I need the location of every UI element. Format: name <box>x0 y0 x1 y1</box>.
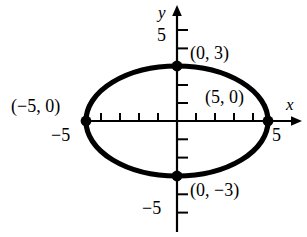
point-label-left: (−5, 0) <box>11 97 60 115</box>
y-axis-label: y <box>158 4 166 21</box>
y-axis-arrowhead <box>172 5 182 16</box>
vertex-point-bottom <box>172 171 183 182</box>
x-axis-arrowhead <box>291 116 302 126</box>
y-tick-label-5: 5 <box>157 26 166 44</box>
point-label-right: (5, 0) <box>205 88 244 106</box>
point-label-bottom: (0, −3) <box>190 181 239 199</box>
point-label-top: (0, 3) <box>190 44 229 62</box>
vertex-point-left <box>81 116 92 127</box>
x-axis-label: x <box>286 96 294 113</box>
x-tick-label-negative-5: −5 <box>51 126 70 144</box>
vertex-point-top <box>172 61 183 72</box>
x-tick-label-5: 5 <box>272 126 281 144</box>
y-tick-label-negative-5: −5 <box>142 199 161 217</box>
graph-figure: y x 5 −5 −5 5 (0, 3) (−5, 0) (5, 0) (0, … <box>0 0 307 237</box>
